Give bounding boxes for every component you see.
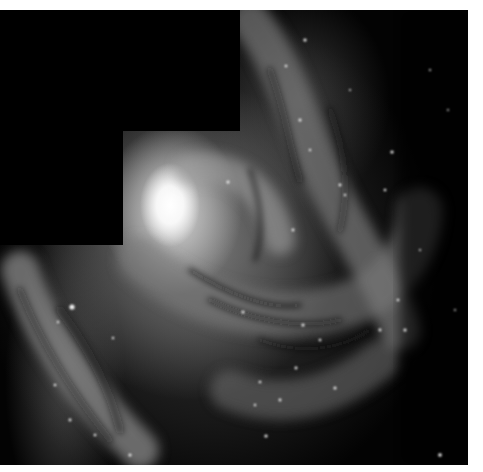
mask-block-left [0, 131, 123, 245]
mask-block-top [0, 10, 240, 131]
galaxy-photograph [0, 10, 468, 465]
